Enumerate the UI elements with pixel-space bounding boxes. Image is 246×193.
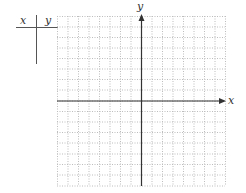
y-axis-label: y	[137, 1, 143, 12]
axes	[57, 20, 222, 186]
x-axis-arrow-icon	[219, 98, 226, 104]
grid-svg	[0, 0, 246, 193]
y-axis-arrow-icon	[139, 14, 145, 21]
x-axis-label: x	[228, 95, 234, 106]
